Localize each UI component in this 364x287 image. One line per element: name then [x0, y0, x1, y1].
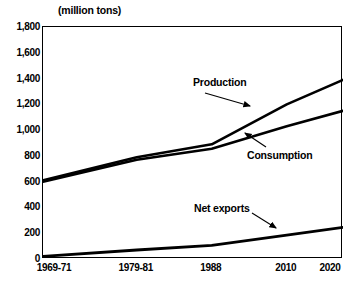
y-axis-tick-label: 1,400 — [2, 72, 40, 83]
x-axis-tick-label: 1979-81 — [118, 262, 153, 273]
series-line-production — [43, 80, 343, 181]
series-lines — [43, 27, 343, 259]
x-axis-tick-label: 1988 — [200, 262, 221, 273]
series-line-net-exports — [43, 227, 343, 256]
x-axis-tick-label: 2010 — [275, 262, 296, 273]
y-axis: 02004006008001,0001,2001,4001,6001,800 — [0, 0, 40, 287]
x-axis-tick-label: 2020 — [319, 262, 340, 273]
y-axis-tick-label: 800 — [2, 149, 40, 160]
x-axis-tick-label: 1969-71 — [37, 262, 72, 273]
annotation-net-exports: Net exports — [194, 202, 250, 214]
annotation-production: Production — [193, 76, 246, 88]
y-axis-tick-label: 1,200 — [2, 98, 40, 109]
y-axis-tick-label: 1,800 — [2, 21, 40, 32]
y-axis-tick-label: 600 — [2, 175, 40, 186]
plot-area — [42, 26, 342, 258]
y-axis-tick-label: 400 — [2, 201, 40, 212]
chart-units-title: (million tons) — [58, 4, 121, 16]
x-axis: 1969-711979-81198820102020 — [0, 262, 364, 280]
y-axis-tick-label: 1,000 — [2, 124, 40, 135]
y-axis-tick-label: 200 — [2, 227, 40, 238]
y-axis-tick-label: 1,600 — [2, 46, 40, 57]
annotation-consumption: Consumption — [247, 149, 312, 161]
chart-figure: (million tons) 02004006008001,0001,2001,… — [0, 0, 364, 287]
